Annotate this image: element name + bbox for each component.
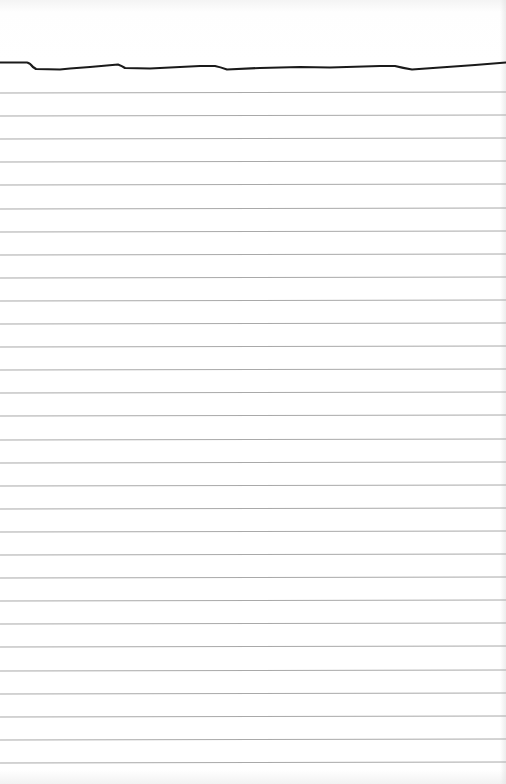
rule-line [0,438,506,440]
rule-line [0,91,506,93]
rule-line [0,161,506,163]
rule-line [0,346,506,348]
rule-line [0,577,506,579]
rule-line [0,184,506,186]
rule-line [0,138,506,140]
rule-line [0,253,506,255]
rule-line [0,484,506,486]
notepad-page [0,0,506,784]
hand-drawn-header-line [0,55,506,75]
rule-line [0,738,506,740]
rule-line [0,553,506,555]
rule-line [0,392,506,394]
rule-line [0,692,506,694]
rule-line [0,299,506,301]
rule-line [0,669,506,671]
rule-line [0,761,506,763]
rule-line [0,507,506,509]
rule-line [0,461,506,463]
rule-line [0,646,506,648]
rule-line [0,276,506,278]
rule-line [0,415,506,417]
rule-line [0,715,506,717]
rule-line [0,600,506,602]
rule-line [0,369,506,371]
rule-line [0,530,506,532]
rule-line [0,207,506,209]
rule-line [0,322,506,324]
rule-line [0,230,506,232]
rule-line [0,115,506,117]
rule-line [0,623,506,625]
